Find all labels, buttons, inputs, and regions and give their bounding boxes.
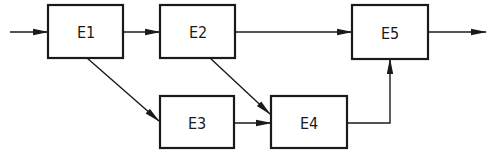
block-e5-label: E5 [381,24,399,43]
edge-e1-e3 [87,58,159,121]
block-e4-label: E4 [300,114,318,133]
block-e5: E5 [352,5,428,59]
edge-e4-e5 [347,59,390,123]
block-diagram: E1 E2 E3 E4 E5 [0,0,495,168]
block-e2-label: E2 [189,23,207,42]
block-e1: E1 [48,5,123,58]
block-e3: E3 [160,96,234,148]
block-e4: E4 [271,96,347,148]
block-e1-label: E1 [77,23,95,42]
block-e2: E2 [160,5,235,58]
block-e3-label: E3 [188,114,206,133]
